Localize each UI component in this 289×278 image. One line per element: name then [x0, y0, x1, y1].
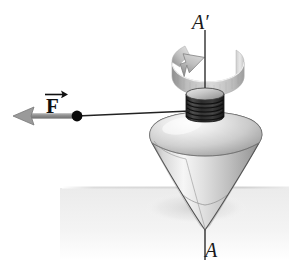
physics-figure: A′ A F	[0, 0, 289, 278]
force-application-dot	[72, 111, 83, 122]
force-label-text: F	[46, 96, 59, 117]
axis-label-a: A	[205, 240, 217, 260]
figure-canvas	[0, 0, 289, 278]
force-label: F	[43, 88, 73, 120]
string-spool	[186, 88, 224, 122]
axis-label-a-prime: A′	[192, 12, 209, 32]
